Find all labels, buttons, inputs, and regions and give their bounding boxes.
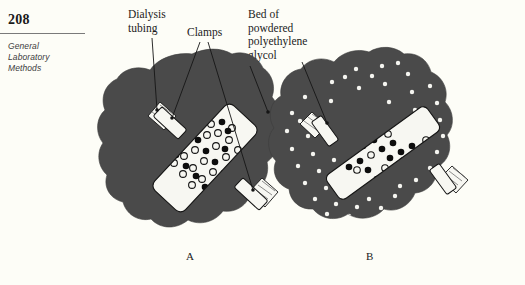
leader-endpoint-dialysis (155, 108, 159, 112)
figure-illustration (0, 0, 525, 285)
leader-endpoint-bed-left (266, 110, 270, 114)
textbook-page: 208 General Laboratory Methods Dialysis … (0, 0, 525, 285)
leader-endpoint-clamps-right (251, 188, 255, 192)
leader-endpoint-clamps-left (170, 116, 174, 120)
leader-endpoint-bed-right (325, 121, 329, 125)
panel-a-group (98, 49, 279, 227)
panel-b-group (269, 47, 468, 218)
